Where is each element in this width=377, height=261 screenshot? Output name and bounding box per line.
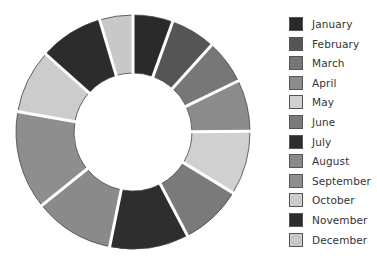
legend-label: September [312,175,371,187]
legend-label: November [312,214,367,226]
legend-item-may: May [289,95,334,109]
legend-swatch [289,115,303,129]
legend-label: June [312,116,335,128]
legend-label: October [312,194,355,206]
legend-item-august: August [289,154,349,168]
legend-swatch [289,193,303,207]
legend-swatch [289,174,303,188]
legend-item-october: October [289,193,355,207]
legend-item-april: April [289,76,337,90]
legend-label: July [312,136,331,148]
legend-label: April [312,77,337,89]
legend-item-december: December [289,233,367,247]
legend-item-june: June [289,115,335,129]
legend-label: February [312,38,359,50]
legend-item-march: March [289,56,345,70]
legend-swatch [289,154,303,168]
legend-item-january: January [289,17,353,31]
legend-label: January [312,18,353,30]
legend-item-july: July [289,135,331,149]
legend-swatch [289,56,303,70]
legend-label: March [312,57,345,69]
legend-label: May [312,96,334,108]
legend-swatch [289,135,303,149]
legend-label: December [312,234,367,246]
legend-swatch [289,37,303,51]
legend-swatch [289,76,303,90]
legend-swatch [289,233,303,247]
legend-item-february: February [289,37,359,51]
legend-item-september: September [289,174,371,188]
legend-swatch [289,17,303,31]
legend-swatch [289,213,303,227]
donut-chart [0,0,270,261]
legend-item-november: November [289,213,367,227]
legend-label: August [312,155,349,167]
legend-swatch [289,95,303,109]
